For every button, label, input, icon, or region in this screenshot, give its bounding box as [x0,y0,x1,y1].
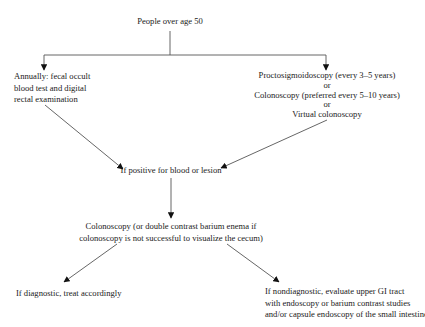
node-text: Annually: fecal occult [14,71,124,83]
node-nondiagnostic-evaluate: If nondiagnostic, evaluate upper GI trac… [265,286,425,321]
node-endoscopy-options: Proctosigmoidoscopy (every 3–5 years) or… [247,71,407,120]
node-text: If diagnostic, treat accordingly [16,288,126,299]
node-colonoscopy: Colonoscopy (or double contrast barium e… [71,221,271,244]
node-positive-blood-lesion: If positive for blood or lesion [111,165,231,176]
node-text: blood test and digital [14,83,124,95]
edge-colonoscopy-to-diagnostic [64,244,117,282]
node-text: Virtual colonoscopy [247,110,407,120]
node-text: with endoscopy or barium contrast studie… [265,298,425,310]
node-diagnostic-treat: If diagnostic, treat accordingly [16,288,126,299]
flowchart-canvas: People over age 50 Annually: fecal occul… [0,0,425,327]
flowchart-edges [0,0,425,327]
node-annual-fobt: Annually: fecal occult blood test and di… [14,71,124,106]
node-text: and/or capsule endoscopy of the small in… [265,309,425,321]
node-text: If positive for blood or lesion [111,165,231,176]
node-text: colonoscopy is not successful to visuali… [71,233,271,245]
node-text: Colonoscopy (or double contrast barium e… [71,221,271,233]
node-people-over-50: People over age 50 [120,16,220,27]
edge-annual-to-positive [45,105,123,169]
node-text: People over age 50 [120,16,220,27]
node-text: rectal examination [14,94,124,106]
node-text: If nondiagnostic, evaluate upper GI trac… [265,286,425,298]
edge-endoscopy-to-positive [221,120,327,168]
edge-colonoscopy-to-nondiagnostic [227,244,279,282]
